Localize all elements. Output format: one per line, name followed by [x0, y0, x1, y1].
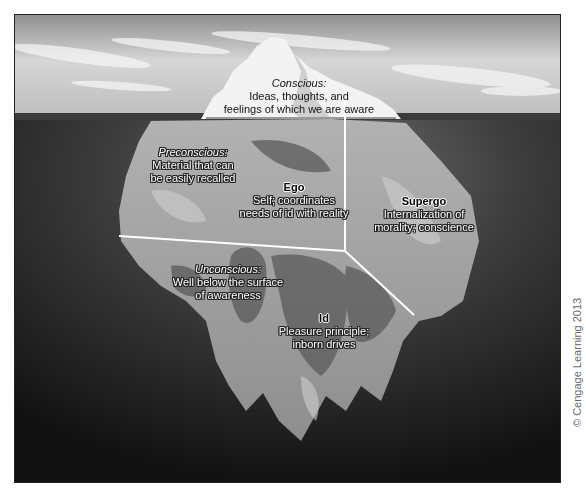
supergo-title: Supergo [359, 195, 489, 208]
ego-title: Ego [214, 181, 374, 194]
unconscious-title: Unconscious: [158, 263, 298, 276]
preconscious-desc-1: Material that can [128, 159, 258, 172]
unconscious-desc-2: of awareness [158, 289, 298, 302]
ego-desc-1: Self; coordinates [214, 194, 374, 207]
conscious-label: Conscious: Ideas, thoughts, and feelings… [189, 77, 409, 116]
conscious-desc-2: feelings of which we are aware [189, 103, 409, 116]
unconscious-desc-1: Well below the surface [158, 276, 298, 289]
conscious-title: Conscious: [189, 77, 409, 90]
id-label: Id Pleasure principle; inborn drives [264, 312, 384, 351]
unconscious-label: Unconscious: Well below the surface of a… [158, 263, 298, 302]
ego-label: Ego Self; coordinates needs of id with r… [214, 181, 374, 220]
supergo-desc-2: morality; conscience [359, 221, 489, 234]
preconscious-label: Preconscious: Material that can be easil… [128, 146, 258, 185]
preconscious-title: Preconscious: [128, 146, 258, 159]
iceberg-diagram: Conscious: Ideas, thoughts, and feelings… [14, 14, 561, 483]
supergo-label: Supergo Internalization of morality; con… [359, 195, 489, 234]
copyright-credit: © Cengage Learning 2013 [571, 298, 583, 427]
id-desc-1: Pleasure principle; [264, 325, 384, 338]
conscious-desc-1: Ideas, thoughts, and [189, 90, 409, 103]
ego-desc-2: needs of id with reality [214, 207, 374, 220]
supergo-desc-1: Internalization of [359, 208, 489, 221]
id-desc-2: inborn drives [264, 338, 384, 351]
id-title: Id [264, 312, 384, 325]
